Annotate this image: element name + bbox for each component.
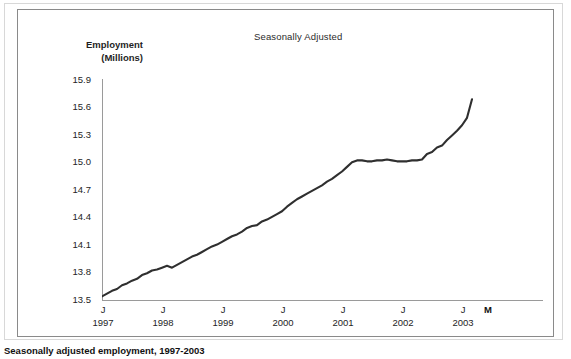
plot-area bbox=[102, 79, 543, 301]
y-tick-13-8: 13.8 bbox=[57, 266, 91, 277]
y-tick-15-6: 15.6 bbox=[57, 101, 91, 112]
x-tick-letter-2002: J bbox=[393, 304, 413, 315]
y-tick-14-4: 14.4 bbox=[57, 211, 91, 222]
x-tick-letter-1999: J bbox=[213, 304, 233, 315]
x-tick-end-marker-m: M bbox=[480, 304, 496, 315]
y-axis-label-line1: Employment bbox=[86, 39, 143, 50]
y-tick-15-3: 15.3 bbox=[57, 129, 91, 140]
x-tick-letter-1998: J bbox=[153, 304, 173, 315]
employment-line-chart bbox=[102, 79, 543, 301]
figure-caption: Seasonally adjusted employment, 1997-200… bbox=[4, 345, 205, 356]
y-tick-14-7: 14.7 bbox=[57, 184, 91, 195]
x-tick-letter-1997: J bbox=[93, 304, 113, 315]
employment-series-line bbox=[102, 99, 472, 296]
axes bbox=[102, 79, 543, 301]
x-tick-year-1999: 1999 bbox=[203, 317, 243, 328]
figure-container: Seasonally Adjusted Employment(Millions)… bbox=[0, 0, 571, 359]
x-tick-letter-2003: J bbox=[453, 304, 473, 315]
chart-frame: Seasonally Adjusted Employment(Millions)… bbox=[17, 9, 554, 337]
x-tick-year-2000: 2000 bbox=[263, 317, 303, 328]
x-tick-year-1997: 1997 bbox=[83, 317, 123, 328]
x-tick-letter-2001: J bbox=[333, 304, 353, 315]
x-tick-year-2003: 2003 bbox=[443, 317, 483, 328]
x-tick-year-1998: 1998 bbox=[143, 317, 183, 328]
x-tick-letter-2000: J bbox=[273, 304, 293, 315]
y-axis-label: Employment(Millions) bbox=[33, 38, 143, 64]
y-tick-14-1: 14.1 bbox=[57, 239, 91, 250]
x-tick-year-2002: 2002 bbox=[383, 317, 423, 328]
y-tick-15-0: 15.0 bbox=[57, 156, 91, 167]
chart-title: Seasonally Adjusted bbox=[254, 31, 342, 42]
x-tick-year-2001: 2001 bbox=[323, 317, 363, 328]
y-tick-15-9: 15.9 bbox=[57, 74, 91, 85]
y-tick-13-5: 13.5 bbox=[57, 294, 91, 305]
y-axis-label-line2: (Millions) bbox=[33, 51, 143, 64]
